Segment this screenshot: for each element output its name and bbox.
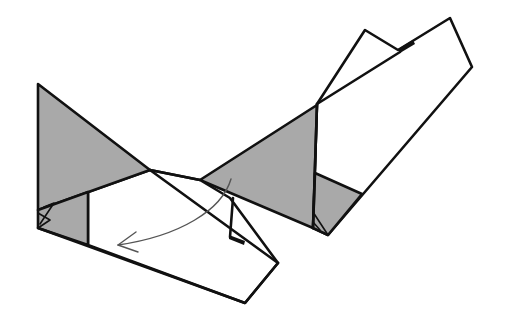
diagram-svg xyxy=(0,0,505,322)
right-model xyxy=(200,18,472,235)
origami-diagram xyxy=(0,0,505,322)
